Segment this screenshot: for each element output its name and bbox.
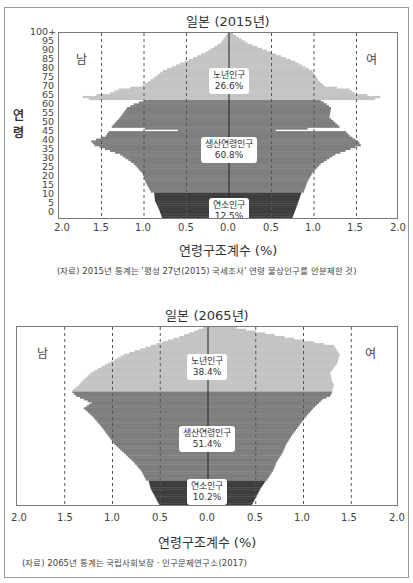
chart-2-youth-label: 연소인구 10.2%	[187, 479, 227, 505]
xtick: 0.0	[199, 512, 215, 523]
age-bar	[227, 33, 233, 35]
chart-2-title: 일본 (2065년)	[157, 305, 257, 324]
chart-1-source-note: (자료) 2015년 통계는 '평성 27년(2015) 국세조사' 연령 불상…	[57, 264, 357, 276]
chart-1-working-age-label: 생산연령인구 60.8%	[201, 137, 257, 163]
age-bar	[163, 218, 292, 219]
xtick: 0.0	[220, 222, 236, 233]
chart-1-title: 일본 (2015년)	[178, 11, 278, 30]
xtick: 1.5	[57, 512, 73, 523]
chart-1-youth-label: 연소인구 12.5%	[209, 198, 249, 219]
ytick: 0	[30, 207, 54, 217]
xtick: 1.5	[347, 222, 363, 233]
chart-2-source-note: (자료) 2065년 통계는 국립사회보장 · 인구문제연구소(2017)	[22, 556, 247, 568]
segment-share: 10.2%	[191, 492, 223, 503]
xtick: 1.0	[104, 512, 120, 523]
segment-name: 노년인구	[213, 70, 245, 81]
segment-name: 노년인구	[191, 356, 223, 367]
chart-1-pyramid	[59, 33, 398, 219]
chart-1-female-label: 여	[366, 50, 377, 67]
segment-name: 연소인구	[191, 481, 223, 492]
chart-2-plot-area: 남 여 노년인구 38.4% 생산연령인구 51.4% 연소인구 10.2%	[16, 326, 398, 506]
age-bar	[160, 505, 251, 506]
xtick: 2.0	[389, 512, 405, 523]
xtick: 0.5	[247, 512, 263, 523]
xtick: 2.0	[54, 222, 70, 233]
segment-share: 60.8%	[205, 150, 253, 161]
segment-share: 51.4%	[183, 439, 231, 450]
chart-2-working-age-label: 생산연령인구 51.4%	[179, 426, 235, 452]
segment-share: 38.4%	[191, 367, 223, 378]
segment-share: 12.5%	[213, 211, 245, 219]
chart-1-plot-area: 남 여 노년인구 26.6% 생산연령인구 60.8% 연소인구 12.5%	[58, 32, 398, 219]
xtick: 2.0	[390, 222, 406, 233]
chart-1-y-axis-label: 연령	[11, 108, 25, 142]
chart-1-x-axis-label: 연령구조계수 (%)	[179, 240, 278, 259]
segment-name: 생산연령인구	[205, 139, 253, 150]
xtick: 1.5	[93, 222, 109, 233]
segment-name: 생산연령인구	[183, 428, 231, 439]
segment-share: 26.6%	[213, 81, 245, 92]
chart-1-male-label: 남	[76, 50, 87, 67]
chart-2-male-label: 남	[37, 344, 48, 361]
xtick: 1.5	[341, 512, 357, 523]
xtick: 2.0	[11, 512, 27, 523]
xtick: 1.0	[305, 222, 321, 233]
chart-1-old-age-label: 노년인구 26.6%	[209, 68, 249, 94]
chart-2-female-label: 여	[365, 344, 376, 361]
xtick: 0.5	[152, 512, 168, 523]
chart-2-x-axis-label: 연령구조계수 (%)	[158, 532, 257, 551]
xtick: 1.0	[135, 222, 151, 233]
xtick: 0.5	[178, 222, 194, 233]
xtick: 1.0	[294, 512, 310, 523]
segment-name: 연소인구	[213, 200, 245, 211]
xtick: 0.5	[263, 222, 279, 233]
chart-2-old-age-label: 노년인구 38.4%	[187, 354, 227, 380]
